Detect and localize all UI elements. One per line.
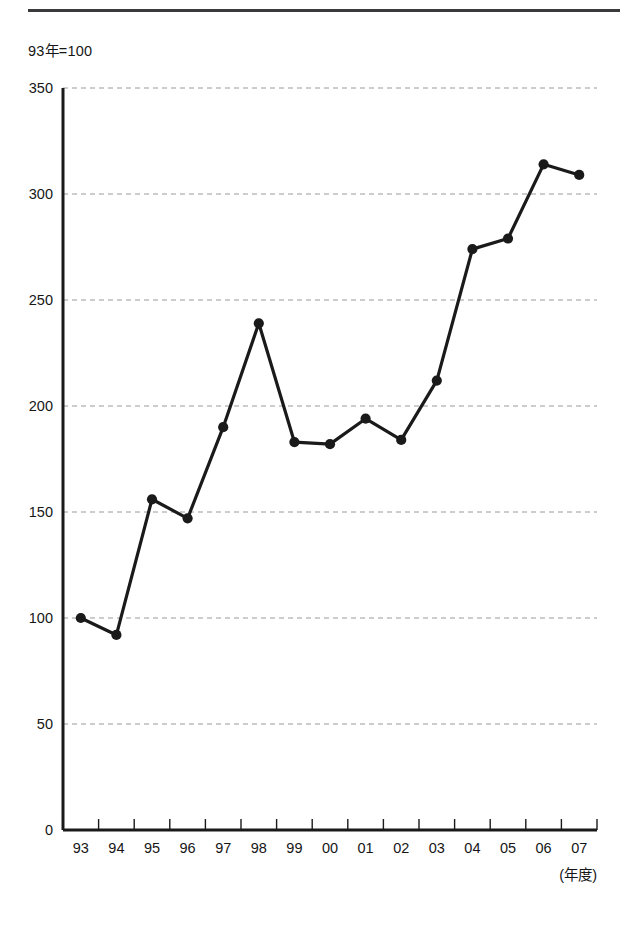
y-axis-tick-label: 250 xyxy=(29,292,53,308)
x-axis-tick-label: 07 xyxy=(571,840,587,856)
data-point-marker xyxy=(218,422,228,432)
data-point-marker xyxy=(76,613,86,623)
x-axis-tick-label: 06 xyxy=(536,840,552,856)
x-axis-tick-label: 02 xyxy=(393,840,409,856)
x-axis-ticks-group xyxy=(63,819,597,830)
x-axis-tick-label: 99 xyxy=(286,840,302,856)
data-point-marker xyxy=(396,435,406,445)
chart-page: 93年=100 050100150200250300350 9394959697… xyxy=(0,0,633,930)
data-point-marker xyxy=(254,318,264,328)
data-point-marker xyxy=(432,375,442,385)
x-axis-tick-label: 00 xyxy=(322,840,338,856)
x-axis-tick-label: 03 xyxy=(429,840,445,856)
data-point-marker xyxy=(539,159,549,169)
x-axis-tick-label: 97 xyxy=(215,840,231,856)
data-point-markers-group xyxy=(76,159,585,640)
y-axis-tick-labels-group: 050100150200250300350 xyxy=(29,80,53,838)
gridlines-group xyxy=(63,88,597,724)
y-axis-tick-label: 300 xyxy=(29,186,53,202)
y-axis-tick-label: 350 xyxy=(29,80,53,96)
data-point-marker xyxy=(503,233,513,243)
line-chart: 050100150200250300350 939495969798990001… xyxy=(0,0,633,930)
data-point-marker xyxy=(361,414,371,424)
chart-svg: 050100150200250300350 939495969798990001… xyxy=(0,0,633,930)
data-point-marker xyxy=(467,244,477,254)
data-point-marker xyxy=(183,513,193,523)
x-axis-tick-label: 96 xyxy=(180,840,196,856)
x-axis-caption: (年度) xyxy=(559,867,597,883)
data-point-marker xyxy=(111,630,121,640)
y-axis-tick-label: 100 xyxy=(29,610,53,626)
data-point-marker xyxy=(147,494,157,504)
x-axis-tick-labels-group: 939495969798990001020304050607 xyxy=(73,840,588,856)
x-axis-tick-label: 94 xyxy=(108,840,124,856)
x-axis-tick-label: 95 xyxy=(144,840,160,856)
y-axis-tick-label: 0 xyxy=(45,822,53,838)
x-axis-tick-label: 01 xyxy=(358,840,374,856)
data-point-marker xyxy=(289,437,299,447)
x-axis-tick-label: 93 xyxy=(73,840,89,856)
x-axis-tick-label: 04 xyxy=(464,840,480,856)
data-point-marker xyxy=(574,170,584,180)
x-axis-tick-label: 98 xyxy=(251,840,267,856)
y-axis-tick-label: 200 xyxy=(29,398,53,414)
y-axis-tick-label: 50 xyxy=(37,716,53,732)
y-axis-tick-label: 150 xyxy=(29,504,53,520)
data-point-marker xyxy=(325,439,335,449)
x-axis-tick-label: 05 xyxy=(500,840,516,856)
